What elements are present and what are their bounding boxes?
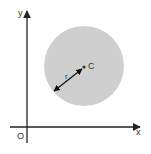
y-axis-label: y [18, 8, 23, 18]
x-axis-label: x [136, 127, 141, 137]
circle-diagram: y O x C r [0, 0, 151, 154]
center-point [82, 65, 85, 68]
center-label: C [88, 61, 95, 71]
radius-label: r [65, 72, 68, 81]
origin-label: O [17, 131, 24, 141]
